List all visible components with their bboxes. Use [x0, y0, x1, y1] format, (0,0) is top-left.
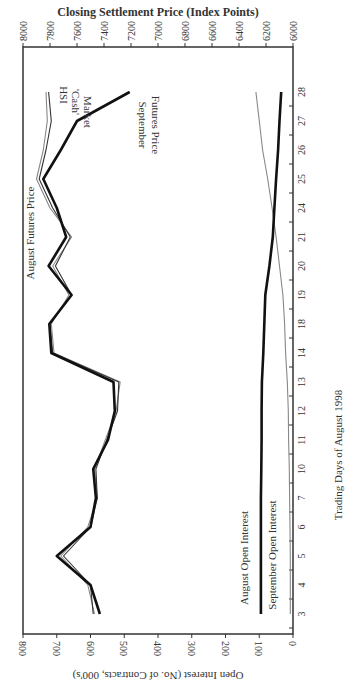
- label-sep-futures-2: Futures Price: [150, 96, 162, 154]
- day-tick-label: 24: [296, 203, 307, 213]
- label-sep-futures-1: September: [137, 101, 149, 148]
- day-tick-label: 25: [296, 174, 307, 184]
- label-sep-oi: September Open Interest: [266, 500, 278, 609]
- price-tick-label: 6400: [234, 21, 245, 41]
- label-aug-oi: August Open Interest: [238, 511, 250, 605]
- day-tick-label: 12: [296, 406, 307, 416]
- day-tick-label: 28: [296, 87, 307, 97]
- open-interest-tick-label: 100: [253, 641, 264, 656]
- day-axis-title: Trading Days of August 1998: [332, 389, 344, 520]
- chart: 8000780076007400720070006800660064006200…: [0, 0, 355, 700]
- day-tick-label: 20: [296, 261, 307, 271]
- price-tick-label: 7200: [126, 21, 137, 41]
- price-tick-label: 6800: [180, 21, 191, 41]
- day-tick-label: 13: [296, 377, 307, 387]
- open-interest-tick-label: 0: [287, 641, 298, 646]
- open-interest-tick-label: 300: [186, 641, 197, 656]
- top-axis-title: Closing Settlement Price (Index Points): [57, 5, 258, 19]
- day-tick-label: 14: [296, 348, 307, 358]
- series-september-futures-price: [43, 92, 129, 614]
- price-tick-label: 7600: [72, 21, 83, 41]
- day-tick-label: 5: [296, 554, 307, 559]
- price-tick-label: 7800: [45, 21, 56, 41]
- price-tick-label: 8000: [18, 21, 29, 41]
- day-tick-label: 4: [296, 583, 307, 588]
- day-tick-label: 18: [296, 319, 307, 329]
- open-interest-axis: 8007006005004003002001000: [17, 634, 298, 656]
- series-lines: [37, 92, 291, 614]
- price-axis: 8000780076007400720070006800660064006200…: [18, 21, 299, 47]
- price-tick-label: 7400: [99, 21, 110, 41]
- day-tick-label: 11: [296, 435, 307, 445]
- open-interest-tick-label: 600: [85, 641, 96, 656]
- price-tick-label: 6000: [288, 21, 299, 41]
- label-august-futures: August Futures Price: [24, 186, 36, 279]
- open-interest-tick-label: 200: [220, 641, 231, 656]
- day-tick-label: 7: [296, 496, 307, 501]
- open-interest-tick-label: 700: [51, 641, 62, 656]
- day-tick-label: 26: [296, 145, 307, 155]
- day-tick-label: 6: [296, 525, 307, 530]
- day-axis: 345671011121314181920212425262728: [289, 87, 307, 628]
- price-tick-label: 6600: [207, 21, 218, 41]
- day-tick-label: 21: [296, 232, 307, 242]
- label-hsi-3: Market: [82, 96, 94, 128]
- price-tick-label: 7000: [153, 21, 164, 41]
- open-interest-tick-label: 800: [17, 641, 28, 656]
- day-tick-label: 19: [296, 290, 307, 300]
- price-tick-label: 6200: [261, 21, 272, 41]
- label-hsi-1: HSI: [58, 86, 70, 104]
- day-tick-label: 3: [296, 612, 307, 617]
- open-interest-tick-label: 400: [152, 641, 163, 656]
- open-interest-tick-label: 500: [118, 641, 129, 656]
- label-hsi-2: 'Cash': [70, 89, 82, 115]
- day-tick-label: 27: [296, 116, 307, 126]
- bottom-axis-title: Open Interest (No. of Contracts, 000's): [72, 669, 243, 682]
- day-tick-label: 10: [296, 464, 307, 474]
